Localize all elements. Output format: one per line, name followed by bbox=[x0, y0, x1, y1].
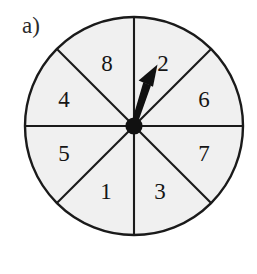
sector-label-7: 7 bbox=[198, 142, 210, 165]
spinner-diagram bbox=[0, 0, 257, 274]
pointer-hub bbox=[125, 117, 142, 134]
spinner-figure: a) 2 6 7 3 1 5 4 8 bbox=[0, 0, 257, 274]
sector-label-2: 2 bbox=[157, 52, 169, 75]
sector-label-5: 5 bbox=[58, 142, 70, 165]
sector-label-4: 4 bbox=[58, 88, 70, 111]
sector-label-3: 3 bbox=[154, 180, 166, 203]
sector-label-1: 1 bbox=[100, 180, 112, 203]
sector-label-6: 6 bbox=[198, 88, 210, 111]
sector-label-8: 8 bbox=[101, 52, 113, 75]
panel-label: a) bbox=[22, 14, 40, 37]
